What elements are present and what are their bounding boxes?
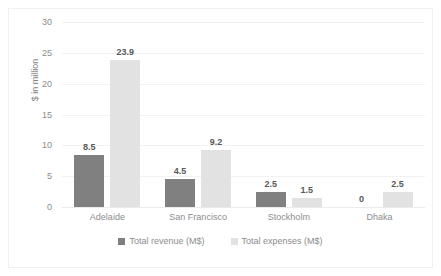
- y-tick-label-20: 20: [30, 79, 52, 89]
- y-tick-label-25: 25: [30, 48, 52, 58]
- bar-group: 8.523.9: [62, 22, 153, 207]
- bar[interactable]: [74, 155, 104, 207]
- bar-value-label: 2.5: [378, 179, 418, 189]
- bar[interactable]: [201, 150, 231, 207]
- y-tick-label-10: 10: [30, 140, 52, 150]
- y-tick-label-0: 0: [30, 202, 52, 212]
- legend-item-total-expenses[interactable]: Total expenses (M$): [231, 236, 323, 247]
- bar[interactable]: [383, 192, 413, 207]
- bar-value-label: 23.9: [105, 47, 145, 57]
- bar-value-label: 9.2: [196, 137, 236, 147]
- legend-label-expenses: Total expenses (M$): [242, 236, 323, 247]
- bar[interactable]: [165, 179, 195, 207]
- legend-item-total-revenue[interactable]: Total revenue (M$): [118, 236, 204, 247]
- legend-swatch-icon-expenses: [231, 238, 238, 245]
- bar-chart-figure: $ in million 051015202530 8.523.94.59.22…: [0, 0, 441, 276]
- bar-group: 4.59.2: [153, 22, 244, 207]
- chart-legend: Total revenue (M$) Total expenses (M$): [0, 236, 441, 247]
- x-tick-label: Dhaka: [325, 212, 435, 223]
- bar-value-label: 1.5: [287, 185, 327, 195]
- y-axis-title: $ in million: [26, 0, 44, 180]
- y-tick-label-5: 5: [30, 171, 52, 181]
- bar-value-label: 4.5: [160, 166, 200, 176]
- bar-value-label: 8.5: [69, 142, 109, 152]
- legend-swatch-icon-revenue: [118, 238, 125, 245]
- bar-value-label: 0: [342, 194, 382, 204]
- bar-group: 02.5: [334, 22, 425, 207]
- y-tick-label-15: 15: [30, 110, 52, 120]
- bar[interactable]: [110, 60, 140, 207]
- bar[interactable]: [292, 198, 322, 207]
- bar-value-label: 2.5: [251, 179, 291, 189]
- bar-group: 2.51.5: [244, 22, 335, 207]
- bar[interactable]: [256, 192, 286, 207]
- gridline-0: [62, 207, 425, 208]
- plot-area: 8.523.94.59.22.51.502.5: [62, 22, 425, 207]
- legend-label-revenue: Total revenue (M$): [129, 236, 204, 247]
- y-tick-label-30: 30: [30, 17, 52, 27]
